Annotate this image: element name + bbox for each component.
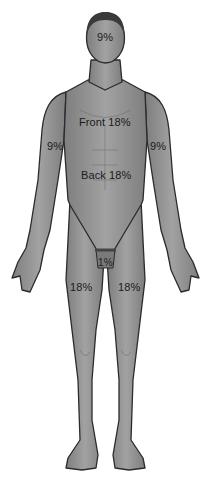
right-arm-shape [12,92,66,292]
right-arm-percentage-label: 9% [47,141,63,152]
genitals-percentage-label: 1% [98,258,113,268]
right-leg-percentage-label: 18% [70,282,92,293]
left-leg-percentage-label: 18% [118,282,140,293]
body-figure [0,0,211,490]
head-percentage-label: 9% [97,32,113,43]
left-arm-shape [145,92,199,292]
left-arm-percentage-label: 9% [150,141,166,152]
trunk-front-percentage-label: Front 18% [79,117,131,128]
trunk-back-percentage-label: Back 18% [81,170,131,181]
